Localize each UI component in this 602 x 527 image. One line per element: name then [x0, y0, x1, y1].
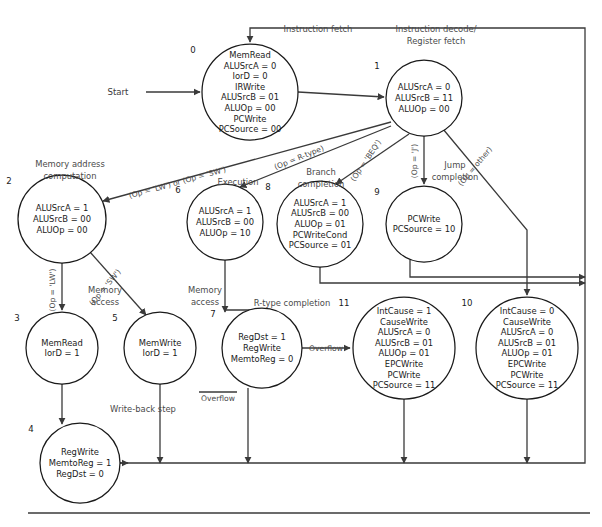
state-node-2[interactable]: 2ALUSrcA = 1ALUSrcB = 00ALUOp = 00 [6, 175, 106, 263]
state-0-signal-line: ALUSrcB = 01 [221, 92, 279, 102]
caption-execution: Execution [217, 177, 258, 187]
state-11-signal-line: EPCWrite [385, 359, 423, 369]
caption-write-back-step: Write-back step [110, 404, 176, 414]
state-0-signal-line: IRWrite [235, 82, 265, 92]
state-node-4[interactable]: 4RegWriteMemtoReg = 1RegDst = 0 [28, 423, 120, 503]
caption-instruction-fetch: Instruction fetch [284, 24, 353, 34]
edge-label-lw: (Op = 'LW') [48, 268, 57, 311]
caption-branch-line2: completion [298, 179, 345, 189]
state-5-signal-line: MemWrite [139, 338, 182, 348]
edge-9-to-bus [410, 260, 585, 277]
state-number-10: 10 [462, 298, 473, 308]
state-number-11: 11 [339, 298, 350, 308]
states-layer: 0MemReadALUSrcA = 0IorD = 0IRWriteALUSrc… [6, 44, 578, 503]
caption-memory-address-line1: Memory address [35, 159, 105, 169]
state-4-signal-line: RegDst = 0 [56, 469, 104, 479]
state-6-signal-line: ALUSrcB = 00 [196, 217, 254, 227]
state-10-signal-line: IntCause = 0 [500, 306, 555, 316]
state-1-signal-line: ALUOp = 00 [398, 104, 449, 114]
edge-0-to-1 [298, 92, 384, 97]
caption-instruction-decode-line2: Register fetch [407, 36, 465, 46]
state-11-signal-line: ALUSrcA = 0 [378, 327, 431, 337]
state-10-signal-line: PCSource = 11 [496, 380, 559, 390]
state-number-2: 2 [6, 176, 11, 186]
caption-memory-access-sw-line2: access [191, 297, 219, 307]
state-11-signal-line: ALUSrcB = 01 [375, 338, 433, 348]
state-number-5: 5 [112, 313, 117, 323]
state-node-8[interactable]: 8ALUSrcA = 1ALUSrcB = 00ALUOp = 01PCWrit… [265, 181, 363, 267]
state-7-signal-line: MemtoReg = 0 [231, 354, 294, 364]
edge-label-beq: (Op = 'BEQ') [349, 138, 383, 183]
state-node-0[interactable]: 0MemReadALUSrcA = 0IorD = 0IRWriteALUSrc… [190, 44, 298, 140]
edge-label-jump-op: (Op = 'J') [410, 144, 419, 178]
caption-rtype-completion: R-type completion [254, 298, 331, 308]
state-2-signal-line: ALUOp = 00 [36, 225, 87, 235]
caption-instruction-decode-line1: Instruction decode/ [396, 24, 477, 34]
state-10-signal-line: CauseWrite [503, 317, 551, 327]
edge-label-overflow: Overflow [309, 344, 343, 353]
caption-jump-line1: Jump [443, 160, 465, 170]
state-number-9: 9 [374, 187, 379, 197]
state-6-signal-line: ALUOp = 10 [199, 228, 250, 238]
state-node-9[interactable]: 9PCWritePCSource = 10 [374, 186, 462, 262]
state-10-signal-line: ALUSrcA = 0 [501, 327, 554, 337]
state-5-signal-line: IorD = 1 [142, 348, 177, 358]
state-number-0: 0 [190, 45, 195, 55]
fsm-diagram-canvas: 0MemReadALUSrcA = 0IorD = 0IRWriteALUSrc… [0, 0, 602, 527]
state-10-signal-line: PCWrite [510, 370, 543, 380]
state-0-signal-line: MemRead [229, 50, 271, 60]
state-8-signal-line: ALUSrcB = 00 [291, 208, 349, 218]
state-number-3: 3 [14, 313, 19, 323]
state-11-signal-line: PCWrite [387, 370, 420, 380]
state-7-signal-line: RegDst = 1 [238, 332, 286, 342]
state-2-signal-line: ALUSrcB = 00 [33, 214, 91, 224]
edge-8-to-bus [320, 267, 585, 283]
state-10-signal-line: ALUSrcB = 01 [498, 338, 556, 348]
state-node-7[interactable]: 7RegDst = 1RegWriteMemtoReg = 0 [210, 308, 302, 388]
state-4-signal-line: RegWrite [61, 447, 99, 457]
state-2-signal-line: ALUSrcA = 1 [36, 203, 89, 213]
state-node-3[interactable]: 3MemReadIorD = 1 [14, 312, 98, 384]
finite-state-machine-svg: 0MemReadALUSrcA = 0IorD = 0IRWriteALUSrc… [0, 0, 602, 527]
state-4-signal-line: MemtoReg = 1 [49, 458, 112, 468]
state-0-signal-line: ALUSrcA = 0 [224, 61, 277, 71]
state-3-signal-line: IorD = 1 [44, 348, 79, 358]
state-number-4: 4 [28, 424, 33, 434]
state-0-signal-line: IorD = 0 [232, 71, 267, 81]
state-0-signal-line: PCWrite [233, 114, 266, 124]
state-8-signal-line: ALUSrcA = 1 [294, 198, 347, 208]
state-7-signal-line: RegWrite [243, 343, 281, 353]
state-1-signal-line: ALUSrcB = 11 [395, 93, 453, 103]
state-9-signal-line: PCWrite [407, 214, 440, 224]
state-number-1: 1 [374, 61, 379, 71]
state-11-signal-line: ALUOp = 01 [378, 348, 429, 358]
state-10-signal-line: ALUOp = 01 [501, 348, 552, 358]
state-6-signal-line: ALUSrcA = 1 [199, 206, 252, 216]
state-node-1[interactable]: 1ALUSrcA = 0ALUSrcB = 11ALUOp = 00 [374, 60, 462, 136]
state-8-signal-line: PCWriteCond [293, 230, 348, 240]
state-11-signal-line: PCSource = 11 [373, 380, 436, 390]
state-11-signal-line: IntCause = 1 [377, 306, 432, 316]
state-8-signal-line: PCSource = 01 [289, 240, 352, 250]
state-node-6[interactable]: 6ALUSrcA = 1ALUSrcB = 00ALUOp = 10 [175, 184, 263, 260]
caption-branch-line1: Branch [306, 167, 336, 177]
state-9-signal-line: PCSource = 10 [393, 224, 456, 234]
state-8-signal-line: ALUOp = 01 [294, 219, 345, 229]
state-3-signal-line: MemRead [41, 338, 83, 348]
state-node-5[interactable]: 5MemWriteIorD = 1 [112, 312, 196, 384]
caption-memory-address-line2: computation [44, 171, 97, 181]
state-node-11[interactable]: 11IntCause = 1CauseWriteALUSrcA = 0ALUSr… [339, 297, 455, 399]
state-number-7: 7 [210, 309, 215, 319]
state-1-signal-line: ALUSrcA = 0 [398, 82, 451, 92]
state-0-signal-line: ALUOp = 00 [224, 103, 275, 113]
state-0-signal-line: PCSource = 00 [219, 124, 282, 134]
state-10-signal-line: EPCWrite [508, 359, 546, 369]
state-11-signal-line: CauseWrite [380, 317, 428, 327]
edge-label-overflow-bar: Overflow [201, 394, 235, 403]
state-node-10[interactable]: 10IntCause = 0CauseWriteALUSrcA = 0ALUSr… [462, 297, 578, 399]
start-label: Start [108, 87, 130, 97]
caption-memory-access-sw-line1: Memory [188, 285, 222, 295]
state-number-8: 8 [265, 182, 270, 192]
